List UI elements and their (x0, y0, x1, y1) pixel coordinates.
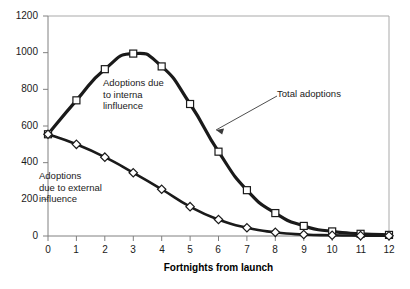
data-point-square (272, 210, 279, 217)
data-point-square (300, 222, 307, 229)
plot-area (0, 0, 410, 289)
x-tick-marks (48, 236, 389, 241)
series-line (48, 53, 389, 235)
x-tick-label-1: 1 (66, 244, 86, 255)
annotation-internal-influence: Adoptions due to interna linfluence (103, 77, 164, 112)
y-tick-label-800: 800 (4, 83, 38, 94)
x-tick-label-8: 8 (265, 244, 285, 255)
data-point-square (187, 101, 194, 108)
x-tick-label-0: 0 (38, 244, 58, 255)
data-point-diamond (72, 140, 80, 148)
x-tick-label-7: 7 (237, 244, 257, 255)
x-tick-label-11: 11 (351, 244, 371, 255)
data-point-diamond (243, 224, 251, 232)
data-point-diamond (300, 230, 308, 238)
y-tick-label-1000: 1000 (4, 46, 38, 57)
data-point-square (243, 187, 250, 194)
x-tick-label-5: 5 (180, 244, 200, 255)
data-point-diamond (271, 228, 279, 236)
annotation-external-influence: Adoptions due to external influence (39, 170, 102, 205)
data-point-square (101, 66, 108, 73)
series-total-adoptions (45, 50, 393, 238)
x-axis-title: Fortnights from launch (48, 262, 389, 273)
total-adoptions-arrow (216, 96, 277, 135)
data-point-square (158, 63, 165, 70)
y-tick-label-200: 200 (4, 193, 38, 204)
chart-container: 1200 1000 800 600 400 200 0 0 1 2 3 4 5 … (0, 0, 410, 289)
x-tick-label-9: 9 (294, 244, 314, 255)
y-tick-label-0: 0 (4, 230, 38, 241)
x-tick-label-2: 2 (95, 244, 115, 255)
data-point-square (130, 50, 137, 57)
y-tick-label-600: 600 (4, 120, 38, 131)
x-tick-label-10: 10 (322, 244, 342, 255)
data-point-square (73, 97, 80, 104)
x-tick-label-12: 12 (379, 244, 399, 255)
y-tick-label-1200: 1200 (4, 10, 38, 21)
data-point-diamond (101, 153, 109, 161)
x-tick-label-6: 6 (208, 244, 228, 255)
x-tick-label-3: 3 (123, 244, 143, 255)
series-layer (44, 50, 393, 240)
annotation-total-adoptions: Total adoptions (277, 88, 341, 100)
x-tick-label-4: 4 (152, 244, 172, 255)
data-point-diamond (214, 215, 222, 223)
y-tick-label-400: 400 (4, 156, 38, 167)
data-point-square (215, 148, 222, 155)
